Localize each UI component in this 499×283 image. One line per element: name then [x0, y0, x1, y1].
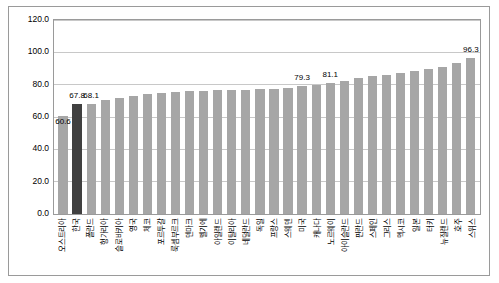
- bar-slot: [225, 20, 239, 214]
- x-axis-category-label: 덴마크: [185, 218, 194, 238]
- y-axis-tick-label: 0.0: [9, 208, 49, 218]
- x-axis-category: 체코: [140, 216, 154, 278]
- x-axis-category-label: 한국: [72, 218, 81, 232]
- y-axis-tick-label: 60.0: [9, 111, 49, 121]
- x-axis-category-label: 폴란드: [86, 218, 95, 238]
- bar-slot: [281, 20, 295, 214]
- x-axis-category: 아이슬란드: [338, 216, 352, 278]
- x-axis-category-label: 스웨덴: [284, 218, 293, 238]
- bar-slot: [154, 20, 168, 214]
- x-axis-category: 일본: [409, 216, 423, 278]
- bar-slot: [450, 20, 464, 214]
- bar-slot: [422, 20, 436, 214]
- x-axis-category: 포르투갈: [154, 216, 168, 278]
- y-axis-tick-label: 100.0: [9, 46, 49, 56]
- bar-slot: [309, 20, 323, 214]
- bar: [143, 94, 152, 214]
- x-axis-category-label: 슬로바키아: [114, 218, 123, 252]
- x-axis-category-label: 그리스: [383, 218, 392, 238]
- bar: 79.3: [297, 86, 306, 214]
- y-axis-tick-label: 40.0: [9, 143, 49, 153]
- bar-slot: [197, 20, 211, 214]
- x-axis-category: 뉴질랜드: [437, 216, 451, 278]
- bar-slot: 68.1: [84, 20, 98, 214]
- x-axis-category-label: 캐나다: [312, 218, 321, 238]
- bar: [199, 91, 208, 214]
- x-axis-category-label: 터키: [425, 218, 434, 232]
- x-axis-category-label: 미국: [298, 218, 307, 232]
- bar-slot: [337, 20, 351, 214]
- x-axis-category-label: 호주: [454, 218, 463, 232]
- bar-slot: [351, 20, 365, 214]
- x-axis-category-label: 영국: [128, 218, 137, 232]
- y-axis-tick-label: 80.0: [9, 79, 49, 89]
- x-axis-category-label: 핀란드: [355, 218, 364, 238]
- x-axis-category-label: 일본: [411, 218, 420, 232]
- bar-slot: [211, 20, 225, 214]
- bar: [241, 90, 250, 214]
- bar: [382, 75, 391, 214]
- y-axis-tick-label: 120.0: [9, 14, 49, 24]
- bar: [354, 78, 363, 214]
- x-axis-category: 오스트리아: [55, 216, 69, 278]
- x-axis-category-label: 노르웨이: [326, 218, 335, 245]
- bar-slot: [394, 20, 408, 214]
- x-axis-category: 영국: [126, 216, 140, 278]
- bar: [227, 90, 236, 214]
- x-axis-category-label: 스페인: [369, 218, 378, 238]
- bar-series: 60.667.868.179.381.196.3: [54, 20, 480, 214]
- plot-area: 60.667.868.179.381.196.3: [53, 19, 481, 215]
- x-axis-category: 아일랜드: [211, 216, 225, 278]
- x-axis-category: 프랑스: [267, 216, 281, 278]
- x-axis-category: 슬로바키아: [112, 216, 126, 278]
- x-axis-category: 독일: [253, 216, 267, 278]
- x-axis-categories: 오스트리아한국폴란드헝가리아슬로바키아영국체코포르투갈룩셈부르크덴마크벨기에아일…: [53, 216, 481, 278]
- x-axis-category: 헝가리아: [97, 216, 111, 278]
- bar-slot: [253, 20, 267, 214]
- x-axis-category: 룩셈부르크: [168, 216, 182, 278]
- x-axis-category: 터키: [423, 216, 437, 278]
- x-axis-category-label: 체코: [142, 218, 151, 232]
- bar-slot: [112, 20, 126, 214]
- bar: 67.8: [72, 104, 81, 214]
- x-axis-category-label: 오스트리아: [58, 218, 67, 252]
- x-axis-category: 스위스: [465, 216, 479, 278]
- bar-slot: [183, 20, 197, 214]
- bar-slot: [239, 20, 253, 214]
- x-axis-category-label: 뉴질랜드: [439, 218, 448, 245]
- x-axis-category-label: 아일랜드: [213, 218, 222, 245]
- bar-slot: [379, 20, 393, 214]
- x-axis-category: 호주: [451, 216, 465, 278]
- bar: 96.3: [466, 58, 475, 214]
- bar-slot: [408, 20, 422, 214]
- x-axis-category: 그리스: [380, 216, 394, 278]
- x-axis-category-label: 포르투갈: [157, 218, 166, 245]
- bar-chart: 0.020.040.060.080.0100.0120.0 60.667.868…: [0, 0, 499, 283]
- bar-slot: 96.3: [464, 20, 478, 214]
- bar-value-label: 81.1: [322, 70, 338, 80]
- bar: [424, 69, 433, 214]
- x-axis-category-label: 스위스: [468, 218, 477, 238]
- bar: 68.1: [87, 104, 96, 214]
- bar: [312, 85, 321, 214]
- bar: [157, 93, 166, 214]
- bar: [340, 81, 349, 214]
- bar: 60.6: [58, 116, 67, 214]
- bar-value-label: 79.3: [294, 73, 310, 83]
- x-axis-category: 노르웨이: [324, 216, 338, 278]
- bar-slot: [436, 20, 450, 214]
- bar-slot: [126, 20, 140, 214]
- x-axis-category-label: 아이슬란드: [340, 218, 349, 252]
- bar-slot: 60.6: [56, 20, 70, 214]
- x-axis-category-label: 멕시코: [397, 218, 406, 238]
- chart-frame: 0.020.040.060.080.0100.0120.0 60.667.868…: [8, 6, 490, 276]
- x-axis-category-label: 벨기에: [199, 218, 208, 238]
- x-axis-category: 스페인: [366, 216, 380, 278]
- x-axis-category-label: 독일: [256, 218, 265, 232]
- bar-slot: [169, 20, 183, 214]
- bar-value-label: 60.6: [55, 117, 71, 127]
- bar: [283, 88, 292, 214]
- bar: [410, 71, 419, 214]
- bar: [269, 89, 278, 214]
- x-axis-category: 미국: [295, 216, 309, 278]
